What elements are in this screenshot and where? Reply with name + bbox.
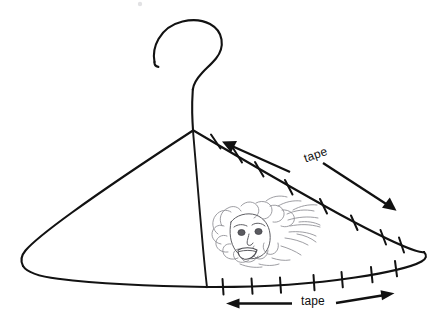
tape-label-lower: tape: [301, 294, 325, 308]
center-vertical-wire: [193, 131, 207, 287]
tape-marks-bottom-edge: [223, 261, 398, 295]
diagram-canvas: tape tape: [0, 0, 442, 327]
face-eye-right: [255, 229, 262, 235]
tape-arrow-upper-right: [323, 163, 397, 211]
face-eye-left: [238, 230, 245, 236]
hanger-hook: [154, 20, 222, 89]
paper-speck: [138, 2, 142, 6]
tape-mark: [371, 267, 373, 282]
tape-mark: [342, 272, 343, 287]
tape-mark: [223, 279, 224, 295]
tape-mark: [280, 278, 281, 293]
scribbled-face-doodle: [212, 196, 320, 267]
face-mouth: [238, 248, 257, 259]
hanger-neck: [192, 90, 193, 131]
tape-mark: [255, 162, 264, 177]
hook-tail-tip: [154, 62, 158, 67]
tape-mark: [314, 275, 315, 290]
hanger-diagram-svg: [0, 0, 442, 327]
tape-arrow-lower-left: [226, 299, 292, 309]
bottom-bar-wire-left: [23, 266, 207, 287]
tape-mark: [395, 261, 397, 276]
tape-arrow-lower-right: [336, 290, 395, 303]
tape-mark: [252, 279, 253, 294]
left-shoulder-wire: [21, 131, 193, 267]
